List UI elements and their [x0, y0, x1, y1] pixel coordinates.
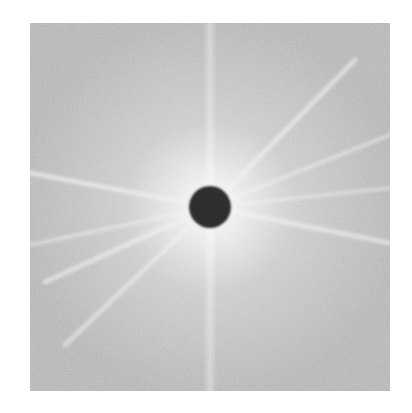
fourier-spectrum-image — [0, 0, 412, 413]
center-notch-disk — [189, 186, 231, 228]
spectrum-frame — [30, 23, 390, 391]
